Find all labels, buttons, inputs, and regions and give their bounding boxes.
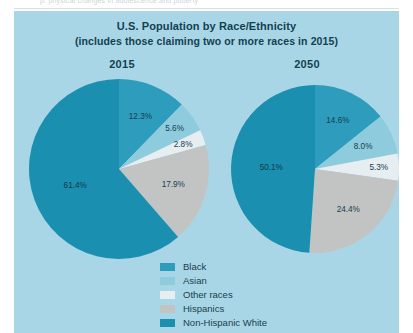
pie-value-asian-2015: 5.6% <box>165 124 184 133</box>
pie-title-2015: 2015 <box>67 58 177 70</box>
legend-swatch-black <box>160 263 175 271</box>
chart-figure: U.S. Population by Race/Ethnicity (inclu… <box>14 11 399 333</box>
pie-value-other-races-2015: 2.8% <box>174 140 193 149</box>
legend-swatch-other-races <box>160 291 175 299</box>
legend-label-other-races: Other races <box>183 288 233 302</box>
pie-value-black-2050: 14.6% <box>326 116 349 125</box>
pie-value-non-hispanic-white-2050: 50.1% <box>260 163 283 172</box>
pie-title-2050: 2050 <box>252 58 362 70</box>
pie-value-other-races-2050: 5.3% <box>369 163 388 172</box>
legend-label-asian: Asian <box>183 274 207 288</box>
legend-item-non-hispanic-white[interactable]: Non-Hispanic White <box>160 316 390 330</box>
legend-swatch-hispanics <box>160 305 175 313</box>
legend-label-non-hispanic-white: Non-Hispanic White <box>183 316 267 330</box>
pie-value-hispanics-2015: 17.9% <box>162 180 185 189</box>
legend-item-other-races[interactable]: Other races <box>160 288 390 302</box>
pie-svg-2015: 12.3%5.6%2.8%17.9%61.4% <box>27 77 211 261</box>
pie-chart-2050: 14.6%8.0%5.3%24.4%50.1% <box>229 83 401 255</box>
chart-subtitle: (includes those claiming two or more rac… <box>14 34 399 49</box>
figure-page: p. physical changes in adolescence and p… <box>0 0 413 333</box>
page-text-fragment-line: p. physical changes in adolescence and p… <box>40 0 198 4</box>
page-divider-rule <box>14 8 399 9</box>
legend-label-hispanics: Hispanics <box>183 302 224 316</box>
chart-title: U.S. Population by Race/Ethnicity <box>14 19 399 34</box>
pie-chart-2015: 12.3%5.6%2.8%17.9%61.4% <box>27 77 211 261</box>
legend-item-asian[interactable]: Asian <box>160 274 390 288</box>
legend-swatch-asian <box>160 277 175 285</box>
page-text-fragment: p. physical changes in adolescence and p… <box>0 0 413 11</box>
legend-label-black: Black <box>183 260 206 274</box>
chart-legend: Black Asian Other races Hispanics Non-Hi… <box>160 260 390 330</box>
legend-item-black[interactable]: Black <box>160 260 390 274</box>
pie-value-hispanics-2050: 24.4% <box>337 205 360 214</box>
legend-item-hispanics[interactable]: Hispanics <box>160 302 390 316</box>
legend-swatch-non-hispanic-white <box>160 319 175 327</box>
pie-svg-2050: 14.6%8.0%5.3%24.4%50.1% <box>229 83 401 255</box>
pie-value-non-hispanic-white-2015: 61.4% <box>64 181 87 190</box>
chart-title-block: U.S. Population by Race/Ethnicity (inclu… <box>14 19 399 49</box>
pie-value-black-2015: 12.3% <box>129 112 152 121</box>
pie-value-asian-2050: 8.0% <box>354 142 373 151</box>
